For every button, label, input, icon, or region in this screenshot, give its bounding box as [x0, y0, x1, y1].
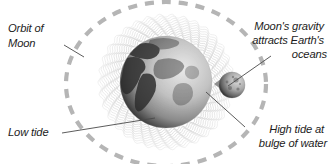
leader-line-orbit [64, 45, 84, 57]
diagram-canvas: Orbit of Moon Moon's gravity attracts Ea… [0, 0, 334, 164]
label-high-tide: High tide at bulge of water [259, 123, 329, 149]
label-low-tide: Low tide [8, 126, 48, 138]
label-gravity-line3: oceans [292, 48, 328, 60]
tides-diagram: Orbit of Moon Moon's gravity attracts Ea… [0, 0, 334, 164]
label-low-tide-line1: Low tide [8, 126, 48, 138]
label-orbit-line2: Moon [8, 37, 35, 49]
label-gravity-line1: Moon's gravity [254, 20, 325, 32]
label-orbit-line1: Orbit of [8, 22, 46, 34]
label-orbit-of-moon: Orbit of Moon [8, 22, 46, 49]
label-high-tide-line1: High tide at [269, 123, 325, 135]
label-moons-gravity: Moon's gravity attracts Earth's oceans [252, 20, 327, 60]
moon-globe [219, 72, 245, 98]
label-gravity-line2: attracts Earth's [252, 34, 324, 46]
leader-line-high-tide [206, 92, 245, 127]
earth-globe [120, 36, 212, 128]
label-high-tide-line2: bulge of water [259, 137, 329, 149]
